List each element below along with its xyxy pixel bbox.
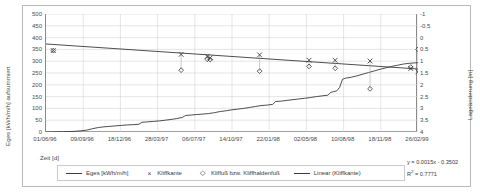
r2-value: = 0.7771: [414, 171, 437, 177]
data-point-kliffkante: [51, 48, 56, 53]
legend-item[interactable]: Eges [kWh/m/h]: [66, 170, 128, 176]
y2-axis-tick-label: 1.5: [420, 70, 428, 76]
y2-axis-tick-label: 0: [420, 35, 423, 41]
trendline-equation: y = 0.0015x - 0.3502: [407, 158, 471, 167]
x-axis-tick-label: 01/06/96: [33, 136, 56, 142]
x-axis-tick-label: 28/03/97: [145, 136, 168, 142]
y2-axis-tick-label: 1: [420, 58, 423, 64]
legend-line-swatch: [66, 173, 82, 174]
x-axis-tick-label: 06/07/97: [182, 136, 205, 142]
y2-axis-tick-label: 3: [420, 105, 423, 111]
y-axis-tick-label: 300: [16, 58, 42, 64]
legend-item-label: Linear (Kliffkante): [314, 170, 361, 176]
y2-axis-tick-label: 2: [420, 82, 423, 88]
y2-axis-tick-label: 3.5: [420, 117, 428, 123]
legend-item[interactable]: ×Kliffkante: [144, 170, 182, 177]
x-axis-tick-label: 09/09/96: [71, 136, 94, 142]
legend-item-label: Eges [kWh/m/h]: [86, 170, 128, 176]
chart-root: Eges [kWh/m/h] aufsummiert Lageänderung …: [0, 0, 480, 192]
y-axis-tick-labels: 050100150200250300350400450500: [14, 14, 42, 132]
y-axis-tick-label: 0: [16, 129, 42, 135]
y-axis-tick-label: 150: [16, 94, 42, 100]
x-axis-tick-label: 10/08/98: [331, 136, 354, 142]
y2-axis-tick-label: 2.5: [420, 94, 428, 100]
y-axis-tick-label: 350: [16, 46, 42, 52]
x-axis-tick-labels: 01/06/9609/09/9618/12/9628/03/9706/07/97…: [45, 136, 417, 148]
y-axis-tick-label: 100: [16, 105, 42, 111]
legend-item-label: Kliffkante: [157, 170, 182, 176]
legend-item-label: Kliffuß bzw. Kliffhaldenfuß: [211, 170, 280, 176]
y2-axis-title: Lageänderung [m]: [466, 70, 473, 120]
plot-area: [45, 14, 417, 132]
legend-line-swatch: [294, 173, 310, 174]
legend-marker-swatch: ×: [144, 170, 154, 177]
chart-legend: Eges [kWh/m/h]×Kliffkante◇Kliffuß bzw. K…: [57, 165, 405, 181]
trendline-r2: R2 = 0.7771: [407, 167, 471, 179]
y-axis-tick-label: 400: [16, 35, 42, 41]
y-axis-tick-label: 50: [16, 117, 42, 123]
legend-item[interactable]: Linear (Kliffkante): [294, 170, 361, 176]
y-axis-title: Eges [kWh/m/h] aufsummiert: [4, 34, 11, 146]
x-axis-tick-label: 18/11/98: [368, 136, 391, 142]
data-point-kliffkante: [416, 69, 418, 74]
trendline-equation-box: y = 0.0015x - 0.3502 R2 = 0.7771: [405, 158, 471, 182]
y2-axis-tick-label: 4: [420, 129, 423, 135]
legend-marker-swatch: ◇: [198, 169, 208, 177]
x-axis-tick-label: 22/01/98: [257, 136, 280, 142]
y2-axis-tick-labels: -1-0.500.511.522.533.54: [420, 14, 450, 132]
x-axis-tick-label: 14/10/97: [219, 136, 242, 142]
x-axis-title: Zeit [d]: [40, 154, 59, 161]
y2-axis-tick-label: -0.5: [420, 23, 430, 29]
y-axis-tick-label: 450: [16, 23, 42, 29]
x-axis-tick-label: 02/05/98: [294, 136, 317, 142]
x-axis-tick-label: 18/12/96: [108, 136, 131, 142]
x-axis-tick-label: 26/02/99: [405, 136, 428, 142]
y2-axis-tick-label: -1: [420, 11, 425, 17]
y-axis-tick-label: 200: [16, 82, 42, 88]
y-axis-tick-label: 250: [16, 70, 42, 76]
plot-svg: [46, 14, 418, 132]
legend-item[interactable]: ◇Kliffuß bzw. Kliffhaldenfuß: [198, 169, 280, 177]
y-axis-tick-label: 500: [16, 11, 42, 17]
y2-axis-tick-label: 0.5: [420, 46, 428, 52]
